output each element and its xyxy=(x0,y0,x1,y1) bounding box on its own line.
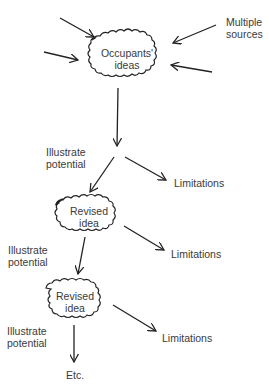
label-line: Illustrate xyxy=(46,146,86,158)
node-line: idea xyxy=(55,217,123,229)
arrow-source-4 xyxy=(171,65,212,72)
node-line: Occupants' xyxy=(88,47,166,59)
node-revised-idea-2: Revised idea xyxy=(44,290,106,314)
label-line: Multiple xyxy=(226,16,263,28)
label-illustrate-potential-1: Illustrate potential xyxy=(46,146,86,170)
label-multiple-sources: Multiple sources xyxy=(226,16,263,40)
arrow-to-limitations-2 xyxy=(124,226,164,250)
arrow-to-limitations-3 xyxy=(113,305,156,331)
arrow-to-revised-2 xyxy=(78,237,85,274)
node-line: ideas xyxy=(88,59,166,71)
diagram-canvas: Occupants' ideas Revised idea Revised id… xyxy=(0,0,269,390)
node-occupants-ideas: Occupants' ideas xyxy=(88,47,166,71)
label-illustrate-potential-2: Illustrate potential xyxy=(8,244,48,268)
label-line: sources xyxy=(226,28,263,40)
node-revised-idea-1: Revised idea xyxy=(55,205,123,229)
label-line: potential xyxy=(8,256,48,268)
label-limitations-2: Limitations xyxy=(171,248,221,260)
label-etc: Etc. xyxy=(66,369,84,381)
label-line: Illustrate xyxy=(8,244,48,256)
arrow-source-1 xyxy=(60,18,94,37)
label-line: potential xyxy=(46,158,86,170)
node-line: Revised xyxy=(55,205,123,217)
label-limitations-3: Limitations xyxy=(162,332,212,344)
arrow-to-limitations-1 xyxy=(125,157,166,180)
node-line: Revised xyxy=(44,290,106,302)
label-limitations-1: Limitations xyxy=(174,177,224,189)
label-line: potential xyxy=(7,337,47,349)
label-line: Illustrate xyxy=(7,325,47,337)
label-illustrate-potential-3: Illustrate potential xyxy=(7,325,47,349)
arrow-to-revised-1 xyxy=(90,157,114,192)
arrow-top-down xyxy=(117,88,118,146)
node-line: idea xyxy=(44,302,106,314)
arrow-source-2 xyxy=(44,52,78,60)
arrow-source-3 xyxy=(173,25,216,43)
